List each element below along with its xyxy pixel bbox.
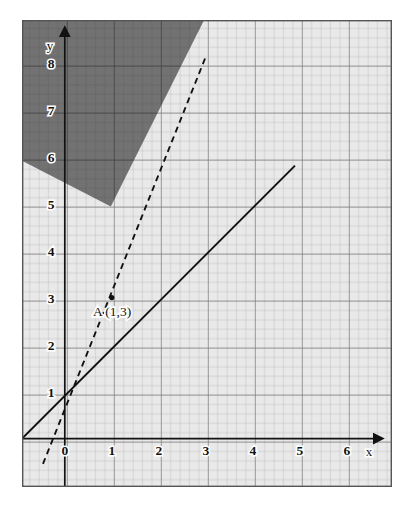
plot-area: 0 1 2 3 4 5 6 — [22, 20, 392, 487]
point-A-label: A (1,3) — [93, 304, 131, 319]
x-tick-5: 5 — [296, 443, 303, 458]
y-tick-8: 8 — [48, 56, 55, 71]
x-tick-3: 3 — [202, 443, 209, 458]
svg-text:6: 6 — [48, 150, 55, 165]
svg-text:5: 5 — [48, 197, 55, 212]
x-tick-4: 4 — [249, 443, 256, 458]
x-axis-label: x — [366, 444, 373, 459]
svg-text:1: 1 — [48, 385, 55, 400]
x-tick-1: 1 — [108, 443, 115, 458]
svg-text:3: 3 — [202, 443, 209, 458]
y-tick-2: 2 — [48, 338, 55, 353]
svg-text:4: 4 — [249, 443, 256, 458]
svg-text:1: 1 — [108, 443, 115, 458]
y-tick-7: 7 — [48, 103, 55, 118]
y-tick-3: 3 — [48, 291, 55, 306]
figure-canvas: 0 1 2 3 4 5 6 — [0, 0, 407, 511]
y-tick-1: 1 — [48, 385, 55, 400]
x-tick-2: 2 — [155, 443, 162, 458]
svg-text:6: 6 — [343, 443, 350, 458]
svg-text:2: 2 — [155, 443, 162, 458]
svg-text:7: 7 — [48, 103, 55, 118]
y-tick-6: 6 — [48, 150, 55, 165]
svg-text:8: 8 — [48, 56, 55, 71]
svg-text:0: 0 — [61, 443, 68, 458]
svg-text:2: 2 — [48, 338, 55, 353]
y-tick-4: 4 — [48, 244, 55, 259]
coordinate-graph: 0 1 2 3 4 5 6 — [22, 20, 392, 487]
x-tick-0: 0 — [61, 443, 68, 458]
x-tick-6: 6 — [343, 443, 350, 458]
point-A-marker — [109, 295, 114, 300]
svg-text:3: 3 — [48, 291, 55, 306]
svg-text:4: 4 — [48, 244, 55, 259]
y-tick-5: 5 — [48, 197, 55, 212]
svg-text:5: 5 — [296, 443, 303, 458]
y-axis-label: y — [47, 38, 54, 53]
